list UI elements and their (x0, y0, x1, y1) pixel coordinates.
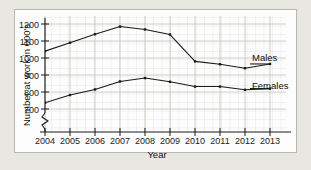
x-tick-label: 2005 (60, 136, 80, 146)
x-tick-label: 2007 (110, 136, 130, 146)
x-tick-label: 2006 (85, 136, 105, 146)
x-tick-label: 2008 (135, 136, 155, 146)
data-point-marker (219, 85, 221, 87)
data-point-marker (94, 33, 96, 35)
x-tick-label: 2004 (35, 136, 55, 146)
data-point-marker (244, 89, 246, 91)
data-point-marker (94, 88, 96, 90)
data-point-marker (69, 42, 71, 44)
data-point-marker (144, 77, 146, 79)
data-point-marker (219, 63, 221, 65)
y-axis-title: Number at work in 000's (21, 24, 32, 126)
chart-canvas: 1200 1100 1000 900 800 700 2004 2005 200… (0, 0, 311, 170)
x-axis-title: Year (147, 149, 166, 160)
x-tick-label: 2011 (210, 136, 229, 146)
line-chart: 1200 1100 1000 900 800 700 2004 2005 200… (0, 0, 311, 170)
data-point-marker (169, 81, 171, 83)
data-point-marker (244, 67, 246, 69)
series-label-males: Males (252, 52, 278, 63)
data-point-marker (169, 33, 171, 35)
x-tick-label: 2010 (185, 136, 205, 146)
x-tick-label: 2013 (260, 136, 280, 146)
data-point-marker (44, 50, 46, 52)
data-point-marker (194, 60, 196, 62)
x-tick-labels: 2004 2005 2006 2007 2008 2009 2010 2011 … (35, 136, 280, 146)
series-label-females: Females (252, 80, 289, 91)
data-point-marker (69, 94, 71, 96)
x-tick-label: 2012 (235, 136, 255, 146)
data-point-marker (119, 80, 121, 82)
data-point-marker (194, 85, 196, 87)
x-tick-label: 2009 (160, 136, 180, 146)
data-point-marker (44, 102, 46, 104)
data-point-marker (119, 25, 121, 27)
data-point-marker (144, 28, 146, 30)
